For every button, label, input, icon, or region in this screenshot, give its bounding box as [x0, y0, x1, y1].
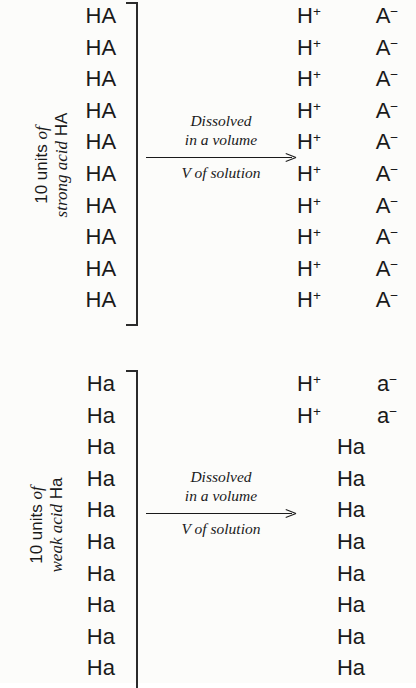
product-anion: A−: [364, 158, 410, 190]
weak-acid-label-of: of: [27, 487, 46, 500]
cation-charge: +: [313, 257, 321, 272]
strong-acid-arrow-above-line1: Dissolved: [146, 112, 296, 131]
product-row: Ha: [286, 621, 416, 653]
anion-charge: −: [389, 404, 397, 419]
reactant-molecule: HA: [78, 253, 124, 285]
product-row: H+a−: [286, 400, 416, 432]
undissociated-molecule: Ha: [322, 463, 380, 495]
cation-charge: +: [313, 99, 321, 114]
product-anion: A−: [364, 32, 410, 64]
weak-acid-arrow-above-line2: in a volume: [146, 487, 296, 506]
reactant-molecule: Ha: [78, 494, 124, 526]
product-anion: A−: [364, 0, 410, 32]
product-cation: H+: [286, 253, 332, 285]
product-row: H+A−: [286, 63, 416, 95]
reactant-molecule: HA: [78, 0, 124, 32]
product-row: Ha: [286, 652, 416, 684]
weak-acid-arrow-below: V of solution: [146, 520, 296, 539]
product-row: H+A−: [286, 158, 416, 190]
undissociated-molecule: Ha: [322, 589, 380, 621]
product-row: Ha: [286, 558, 416, 590]
undissociated-molecule: Ha: [322, 558, 380, 590]
strong-acid-label-line-1: 10 units of: [32, 113, 52, 218]
product-cation: H+: [286, 158, 332, 190]
weak-acid-product-columns: H+a−H+a−HaHaHaHaHaHaHaHa: [286, 368, 416, 684]
reactant-molecule: Ha: [78, 400, 124, 432]
product-anion: A−: [364, 63, 410, 95]
product-cation: H+: [286, 368, 332, 400]
product-row: H+A−: [286, 32, 416, 64]
reactant-molecule: HA: [78, 221, 124, 253]
strong-acid-label-units: 10 units: [32, 144, 51, 204]
reactant-molecule: HA: [78, 158, 124, 190]
cation-charge: +: [313, 67, 321, 82]
product-row: H+A−: [286, 221, 416, 253]
reactant-molecule: Ha: [78, 368, 124, 400]
undissociated-molecule: Ha: [322, 494, 380, 526]
weak-acid-arrow-above-line1: Dissolved: [146, 468, 296, 487]
product-cation: H+: [286, 63, 332, 95]
product-cation: H+: [286, 32, 332, 64]
reactant-molecule: HA: [78, 32, 124, 64]
product-cation: H+: [286, 126, 332, 158]
weak-acid-label-line-2: weak acid Ha: [47, 478, 67, 573]
weak-acid-panel: 10 units of weak acid Ha HaHaHaHaHaHaHaH…: [0, 368, 416, 683]
weak-acid-arrow-above: Dissolved in a volume: [146, 468, 296, 506]
product-anion: a−: [364, 400, 410, 432]
anion-charge: −: [390, 36, 398, 51]
product-anion: A−: [364, 221, 410, 253]
weak-acid-label-formula: Ha: [47, 478, 66, 500]
anion-charge: −: [390, 67, 398, 82]
product-row: Ha: [286, 589, 416, 621]
strong-acid-reactant-column: HAHAHAHAHAHAHAHAHAHA: [78, 0, 124, 316]
product-row: Ha: [286, 431, 416, 463]
reactant-molecule: Ha: [78, 431, 124, 463]
reactant-molecule: Ha: [78, 526, 124, 558]
strong-acid-arrow-icon: [146, 152, 296, 162]
cation-charge: +: [313, 162, 321, 177]
strong-acid-label-kind: strong acid: [52, 141, 71, 217]
weak-acid-label-units: 10 units: [27, 505, 46, 565]
reactant-molecule: HA: [78, 190, 124, 222]
reactant-molecule: Ha: [78, 621, 124, 653]
product-row: H+A−: [286, 190, 416, 222]
anion-charge: −: [390, 225, 398, 240]
cation-charge: +: [313, 36, 321, 51]
product-row: H+A−: [286, 253, 416, 285]
anion-charge: −: [390, 99, 398, 114]
product-row: Ha: [286, 526, 416, 558]
cation-charge: +: [313, 130, 321, 145]
strong-acid-label-formula: HA: [52, 113, 71, 137]
product-anion: a−: [364, 368, 410, 400]
product-row: Ha: [286, 463, 416, 495]
strong-acid-arrow-above: Dissolved in a volume: [146, 112, 296, 150]
cation-charge: +: [313, 193, 321, 208]
product-anion: A−: [364, 284, 410, 316]
product-cation: H+: [286, 0, 332, 32]
weak-acid-arrow-icon: [146, 508, 296, 518]
reactant-molecule: Ha: [78, 652, 124, 684]
anion-charge: −: [390, 4, 398, 19]
weak-acid-label-kind: weak acid: [47, 505, 66, 573]
product-cation: H+: [286, 221, 332, 253]
reactant-molecule: HA: [78, 63, 124, 95]
strong-acid-arrow-below: V of solution: [146, 164, 296, 183]
cation-charge: +: [313, 4, 321, 19]
anion-charge: −: [390, 162, 398, 177]
reactant-molecule: HA: [78, 126, 124, 158]
weak-acid-label-line-1: 10 units of: [27, 478, 47, 573]
product-row: Ha: [286, 494, 416, 526]
cation-charge: +: [313, 404, 321, 419]
cation-charge: +: [313, 288, 321, 303]
strong-acid-arrow-above-line2: in a volume: [146, 131, 296, 150]
product-anion: A−: [364, 95, 410, 127]
reactant-molecule: HA: [78, 95, 124, 127]
strong-acid-label-line-2: strong acid HA: [52, 113, 72, 218]
reactant-molecule: Ha: [78, 558, 124, 590]
strong-acid-bracket: [126, 2, 138, 326]
strong-acid-arrow-group: Dissolved in a volume V of solution: [146, 112, 296, 183]
anion-charge: −: [390, 130, 398, 145]
product-anion: A−: [364, 253, 410, 285]
undissociated-molecule: Ha: [322, 526, 380, 558]
